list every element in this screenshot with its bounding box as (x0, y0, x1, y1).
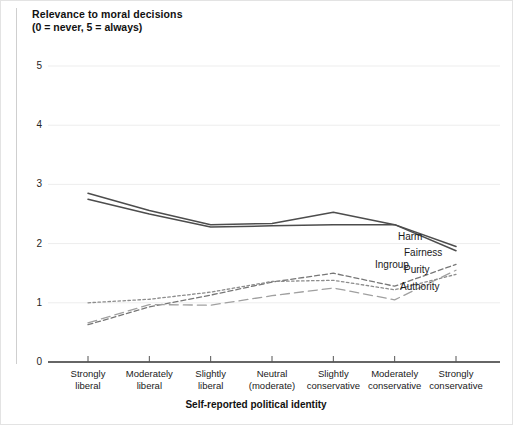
y-tick-label: 1 (28, 298, 42, 308)
y-tick-label: 4 (28, 120, 42, 130)
x-axis-tick-labels: Strongly liberalModerately liberalSlight… (48, 368, 500, 398)
plot-area (48, 56, 500, 364)
y-axis-tick-labels: 012345 (26, 56, 42, 364)
series-label-purity: Purity (404, 264, 430, 275)
series-label-harm: Harm (398, 231, 422, 242)
series-label-fairness: Fairness (404, 247, 442, 258)
series-line-fairness (88, 199, 456, 251)
chart-title: Relevance to moral decisions (32, 8, 183, 21)
chart-subtitle: (0 = never, 5 = always) (32, 21, 142, 34)
series-line-purity (88, 270, 456, 323)
y-tick-label: 0 (28, 357, 42, 367)
x-tick-label: Strongly conservative (417, 368, 495, 391)
gridlines (48, 66, 500, 303)
series-label-authority: Authority (400, 281, 439, 292)
y-tick-label: 2 (28, 239, 42, 249)
plot-svg (48, 56, 500, 364)
title-left-rule (16, 8, 17, 364)
series-line-ingroup (88, 264, 456, 324)
x-axis-ticks (88, 356, 456, 362)
x-axis-title: Self-reported political identity (0, 399, 512, 410)
y-tick-label: 3 (28, 179, 42, 189)
y-tick-label: 5 (28, 61, 42, 71)
